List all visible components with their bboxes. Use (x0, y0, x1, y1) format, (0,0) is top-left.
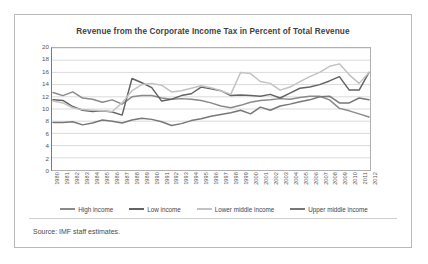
legend-swatch-icon (197, 208, 212, 210)
y-tick-label: 6 (33, 131, 49, 137)
legend-item[interactable]: Lower middle income (197, 206, 275, 213)
series-lines (53, 64, 369, 126)
x-tick-label: 1984 (94, 172, 100, 185)
x-tick-label: 2007 (323, 172, 329, 185)
legend-swatch-icon (129, 208, 144, 210)
x-tick-label: 1983 (84, 172, 90, 185)
source-note: Source: IMF staff estimates. (33, 228, 120, 235)
figure-container: Revenue from the Corporate Income Tax in… (14, 14, 412, 248)
legend-label: Low income (147, 206, 181, 213)
x-tick-label: 2003 (283, 172, 289, 185)
plot-wrapper: 02468101214161820 1980198119821983198419… (33, 47, 395, 195)
legend-swatch-icon (60, 208, 75, 210)
y-tick-label: 18 (33, 56, 49, 62)
legend-swatch-icon (290, 208, 305, 210)
x-tick-label: 1999 (243, 172, 249, 185)
x-tick-label: 1998 (233, 172, 239, 185)
x-tick-label: 1982 (74, 172, 80, 185)
chart-svg (52, 48, 370, 170)
x-tick-label: 1986 (114, 172, 120, 185)
x-tick-label: 2004 (293, 172, 299, 185)
x-tick-label: 2012 (372, 172, 378, 185)
x-tick-label: 1995 (203, 172, 209, 185)
x-tick-label: 1993 (183, 172, 189, 185)
series-line (53, 64, 369, 112)
x-tick-label: 1981 (64, 172, 70, 185)
x-tick-label: 2010 (352, 172, 358, 185)
x-tick-label: 1997 (223, 172, 229, 185)
x-tick-label: 2008 (332, 172, 338, 185)
y-tick-label: 16 (33, 69, 49, 75)
y-tick-label: 8 (33, 118, 49, 124)
y-tick-label: 12 (33, 94, 49, 100)
legend-item[interactable]: Upper middle income (290, 206, 368, 213)
y-tick-label: 0 (33, 168, 49, 174)
y-tick-label: 14 (33, 81, 49, 87)
x-tick-label: 2009 (342, 172, 348, 185)
x-tick-label: 1991 (164, 172, 170, 185)
plot-area (51, 47, 371, 171)
x-tick-label: 2005 (303, 172, 309, 185)
x-tick-label: 1990 (154, 172, 160, 185)
y-tick-label: 4 (33, 143, 49, 149)
legend-item[interactable]: High income (60, 206, 113, 213)
x-tick-label: 1994 (193, 172, 199, 185)
x-tick-label: 2006 (313, 172, 319, 185)
x-tick-label: 1987 (124, 172, 130, 185)
legend-item[interactable]: Low income (129, 206, 181, 213)
legend-label: Lower middle income (215, 206, 275, 213)
legend-label: High income (78, 206, 113, 213)
x-tick-label: 1985 (104, 172, 110, 185)
y-tick-label: 2 (33, 156, 49, 162)
legend-divider (29, 218, 397, 219)
x-tick-label: 1992 (173, 172, 179, 185)
chart-title: Revenue from the Corporate Income Tax in… (15, 27, 411, 36)
x-tick-label: 1988 (134, 172, 140, 185)
series-line (53, 92, 369, 117)
x-tick-label: 1996 (213, 172, 219, 185)
x-tick-label: 2002 (273, 172, 279, 185)
x-tick-label: 1980 (54, 172, 60, 185)
x-tick-label: 1989 (144, 172, 150, 185)
x-tick-label: 2000 (253, 172, 259, 185)
y-tick-label: 10 (33, 106, 49, 112)
x-tick-label: 2001 (263, 172, 269, 185)
legend-label: Upper middle income (308, 206, 368, 213)
x-tick-label: 2011 (362, 172, 368, 184)
y-axis-labels: 02468101214161820 (33, 47, 49, 171)
y-tick-label: 20 (33, 44, 49, 50)
chart-legend: High incomeLow incomeLower middle income… (33, 201, 395, 217)
